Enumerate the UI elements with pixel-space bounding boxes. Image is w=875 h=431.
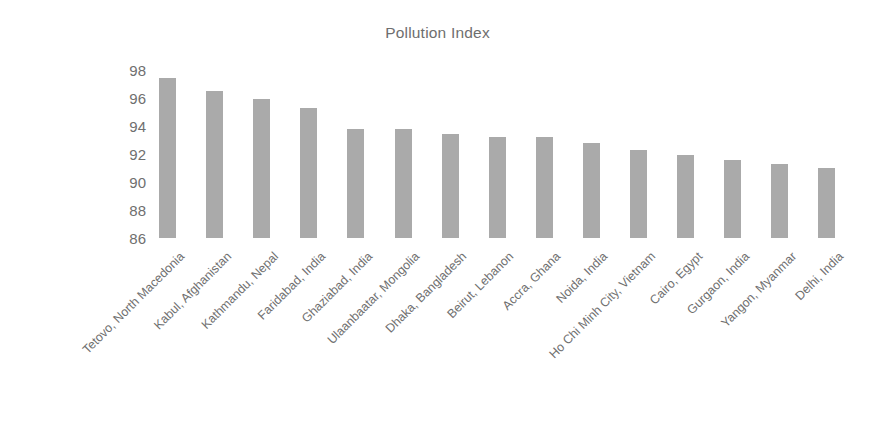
bar[interactable] <box>818 168 835 238</box>
pollution-index-bar-chart: Pollution Index 86889092949698 Tetovo, N… <box>0 0 875 431</box>
bar[interactable] <box>347 129 364 238</box>
bar[interactable] <box>253 99 270 238</box>
bar[interactable] <box>771 164 788 238</box>
bar[interactable] <box>630 150 647 238</box>
y-axis-tick-label: 94 <box>100 119 146 134</box>
bar[interactable] <box>442 134 459 238</box>
bar[interactable] <box>536 137 553 238</box>
y-axis: 86889092949698 <box>100 62 146 246</box>
y-axis-tick-label: 92 <box>100 147 146 162</box>
y-axis-tick-label: 86 <box>100 231 146 246</box>
x-axis-tick-label[interactable]: Delhi, India <box>793 250 846 303</box>
bar[interactable] <box>206 91 223 238</box>
y-axis-tick-label: 90 <box>100 175 146 190</box>
bar[interactable] <box>489 137 506 238</box>
y-axis-tick-label: 96 <box>100 91 146 106</box>
chart-title: Pollution Index <box>0 24 875 42</box>
bar[interactable] <box>300 108 317 238</box>
bar[interactable] <box>395 129 412 238</box>
bar[interactable] <box>583 143 600 238</box>
y-axis-tick-label: 88 <box>100 203 146 218</box>
bar[interactable] <box>159 78 176 238</box>
bar[interactable] <box>677 155 694 238</box>
plot-area <box>150 62 862 246</box>
bar[interactable] <box>724 160 741 238</box>
x-axis-tick-label[interactable]: Dhaka, Bangladesh <box>384 250 470 336</box>
y-axis-tick-label: 98 <box>100 63 146 78</box>
